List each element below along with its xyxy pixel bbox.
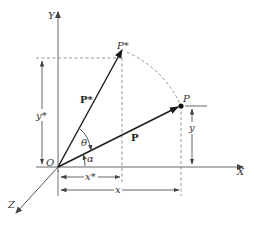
point-p-star-label: P* (116, 40, 129, 51)
point-p (178, 103, 183, 108)
rotation-diagram: Y X Z O P* P P* P θ α y* y x* x (0, 0, 254, 228)
vector-p-star (58, 50, 122, 167)
y-axis-label: Y (48, 10, 56, 21)
x-star-label: x* (85, 171, 96, 182)
rotation-arc (127, 52, 181, 106)
origin-label: O (46, 157, 54, 168)
point-p-label: P (182, 93, 190, 104)
y-label: y (188, 122, 195, 133)
y-star-label: y* (35, 110, 47, 121)
x-label: x (115, 184, 121, 195)
vector-p (58, 107, 178, 167)
theta-label: θ (81, 137, 87, 148)
alpha-arc (83, 155, 85, 167)
alpha-label: α (87, 153, 94, 164)
vector-p-star-label: P* (80, 94, 94, 105)
x-axis-label: X (236, 166, 245, 177)
z-axis (16, 167, 58, 213)
z-axis-label: Z (7, 199, 16, 210)
vector-p-label: P (131, 132, 139, 143)
